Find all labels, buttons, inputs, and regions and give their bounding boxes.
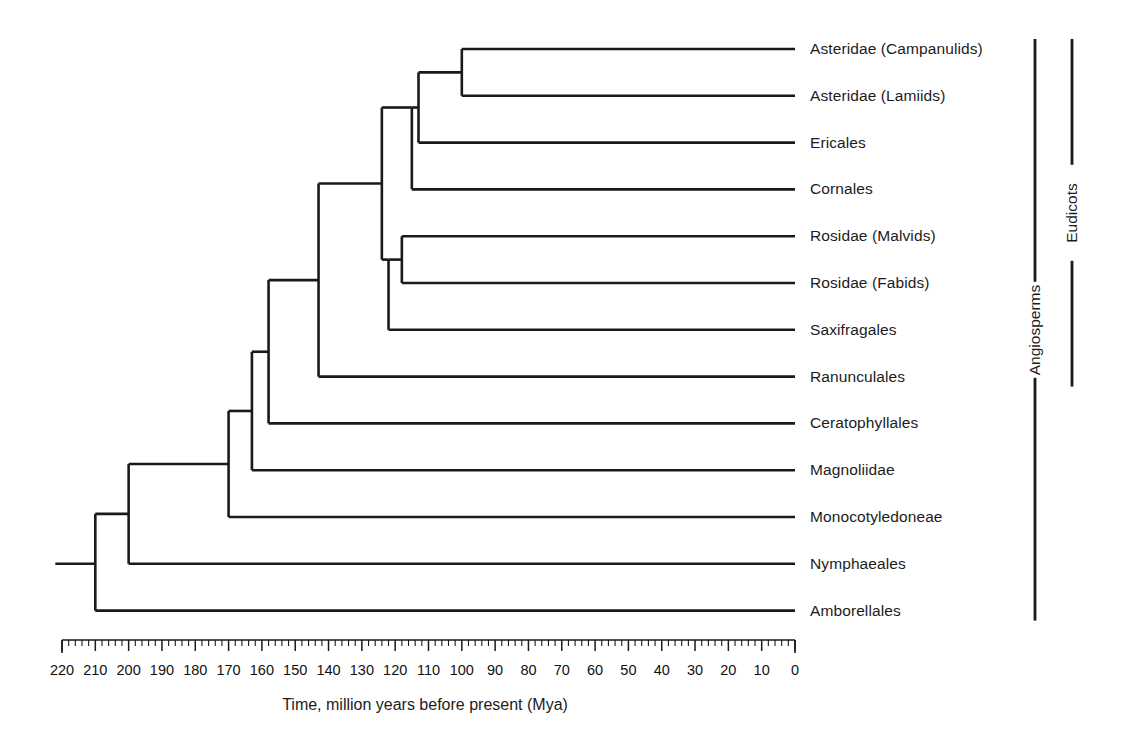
tip-label-rosidae-fabids: Rosidae (Fabids) xyxy=(810,275,930,291)
tip-label-rosidae-malvids: Rosidae (Malvids) xyxy=(810,228,936,244)
axis-tick-label-130: 130 xyxy=(350,663,374,678)
axis-tick-label-80: 80 xyxy=(520,663,536,678)
axis-tick-label-210: 210 xyxy=(83,663,107,678)
tip-label-saxifragales: Saxifragales xyxy=(810,322,897,338)
tip-label-ceratophyllales: Ceratophyllales xyxy=(810,416,918,432)
axis-tick-label-200: 200 xyxy=(117,663,141,678)
axis-tick-label-10: 10 xyxy=(754,663,770,678)
axis-tick-label-150: 150 xyxy=(283,663,307,678)
axis-tick-label-120: 120 xyxy=(383,663,407,678)
tip-label-ranunculales: Ranunculales xyxy=(810,369,905,385)
tip-label-nymphaeales: Nymphaeales xyxy=(810,556,906,572)
axis-tick-label-70: 70 xyxy=(554,663,570,678)
tip-label-ericales: Ericales xyxy=(810,135,866,151)
axis-tick-label-220: 220 xyxy=(50,663,74,678)
axis-tick-label-190: 190 xyxy=(150,663,174,678)
axis-tick-label-50: 50 xyxy=(620,663,636,678)
axis-tick-label-100: 100 xyxy=(450,663,474,678)
bracket-angiosperms-label: Angiosperms xyxy=(1027,285,1043,375)
axis-tick-label-0: 0 xyxy=(791,663,799,678)
axis-title: Time, million years before present (Mya) xyxy=(282,697,568,713)
axis-tick-label-140: 140 xyxy=(316,663,340,678)
tip-label-asteridae-lamiids: Asteridae (Lamiids) xyxy=(810,88,945,104)
tip-label-amborellales: Amborellales xyxy=(810,603,901,619)
phylogenetic-tree-graphic xyxy=(0,0,1121,753)
tree-branches-group xyxy=(55,49,795,611)
figure-canvas: Asteridae (Campanulids)Asteridae (Lamiid… xyxy=(0,0,1121,753)
axis-tick-label-30: 30 xyxy=(687,663,703,678)
axis-tick-label-170: 170 xyxy=(216,663,240,678)
axis-tick-label-60: 60 xyxy=(587,663,603,678)
tip-label-cornales: Cornales xyxy=(810,182,873,198)
axis-tick-label-160: 160 xyxy=(250,663,274,678)
axis-tick-label-40: 40 xyxy=(654,663,670,678)
axis-tick-label-180: 180 xyxy=(183,663,207,678)
time-axis-group xyxy=(62,640,795,653)
axis-tick-label-110: 110 xyxy=(417,663,440,678)
bracket-eudicots-label: Eudicots xyxy=(1064,183,1080,242)
tip-label-monocotyledoneae: Monocotyledoneae xyxy=(810,509,943,525)
axis-tick-label-20: 20 xyxy=(720,663,736,678)
tip-label-magnoliidae: Magnoliidae xyxy=(810,462,895,478)
tip-label-asteridae-campanulids: Asteridae (Campanulids) xyxy=(810,41,983,57)
axis-tick-label-90: 90 xyxy=(487,663,503,678)
